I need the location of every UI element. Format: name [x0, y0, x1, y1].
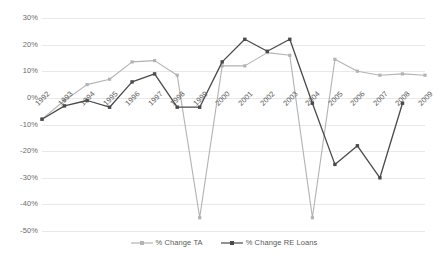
data-point-marker [176, 74, 179, 77]
y-axis-tick-label: -50% [0, 227, 38, 235]
y-axis-tick-label: -10% [0, 121, 38, 129]
series-line [42, 53, 425, 218]
y-axis-labels: 30%20%10%0%-10%-20%-30%-40%-50% [0, 18, 38, 231]
y-axis-tick-label: 20% [0, 41, 38, 49]
data-point-marker [130, 80, 133, 83]
chart-legend: % Change TA% Change RE Loans [0, 238, 448, 247]
data-point-marker [288, 38, 291, 41]
data-point-marker [333, 163, 336, 166]
series-line [42, 39, 403, 178]
gridline [42, 231, 425, 232]
y-axis-tick-label: -40% [0, 200, 38, 208]
data-point-marker [243, 64, 246, 67]
data-point-marker [333, 58, 336, 61]
data-point-marker [198, 216, 201, 219]
data-point-marker [288, 54, 291, 57]
data-point-marker [378, 74, 381, 77]
data-point-marker [266, 50, 269, 53]
line-chart: 30%20%10%0%-10%-20%-30%-40%-50% 19921993… [0, 0, 448, 277]
legend-label: % Change TA [156, 238, 203, 247]
data-point-marker [356, 70, 359, 73]
y-axis-tick-label: -30% [0, 174, 38, 182]
series-lines [42, 18, 425, 231]
legend-item[interactable]: % Change RE Loans [221, 238, 318, 247]
data-point-marker [401, 72, 404, 75]
data-point-marker [378, 176, 381, 179]
y-axis-tick-label: 10% [0, 67, 38, 75]
legend-label: % Change RE Loans [246, 238, 318, 247]
data-point-marker [311, 216, 314, 219]
data-point-marker [243, 38, 246, 41]
data-point-marker [356, 144, 359, 147]
legend-marker-icon [131, 239, 153, 247]
data-point-marker [108, 78, 111, 81]
data-point-marker [86, 83, 89, 86]
y-axis-tick-label: 30% [0, 14, 38, 22]
y-axis-tick-label: -20% [0, 147, 38, 155]
data-point-marker [423, 74, 426, 77]
legend-marker-icon [221, 239, 243, 247]
legend-item[interactable]: % Change TA [131, 238, 203, 247]
data-point-marker [131, 60, 134, 63]
data-point-marker [153, 72, 156, 75]
data-point-marker [40, 118, 43, 121]
data-point-marker [153, 59, 156, 62]
plot-area [42, 18, 425, 231]
data-point-marker [221, 60, 224, 63]
